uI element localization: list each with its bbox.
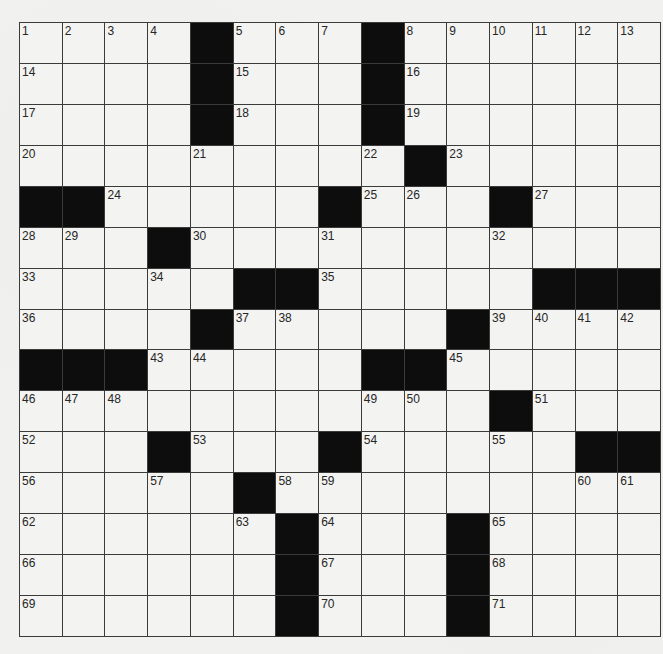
grid-cell-r8-c10[interactable]: 45 <box>447 350 490 391</box>
grid-cell-r11-c14[interactable]: 61 <box>618 473 661 514</box>
grid-cell-r0-c7[interactable]: 7 <box>319 23 362 64</box>
grid-cell-r9-c13[interactable] <box>576 391 619 432</box>
grid-cell-r5-c0[interactable]: 28 <box>20 228 63 269</box>
grid-cell-r5-c1[interactable]: 29 <box>63 228 106 269</box>
grid-cell-r9-c2[interactable]: 48 <box>105 391 148 432</box>
grid-cell-r7-c6[interactable]: 38 <box>276 310 319 351</box>
grid-cell-r0-c2[interactable]: 3 <box>105 23 148 64</box>
grid-cell-r0-c11[interactable]: 10 <box>490 23 533 64</box>
grid-cell-r3-c2[interactable] <box>105 146 148 187</box>
grid-cell-r12-c9[interactable] <box>405 514 448 555</box>
grid-cell-r14-c5[interactable] <box>234 596 277 637</box>
grid-cell-r13-c11[interactable]: 68 <box>490 555 533 596</box>
grid-cell-r11-c4[interactable] <box>191 473 234 514</box>
grid-cell-r11-c8[interactable] <box>362 473 405 514</box>
grid-cell-r5-c11[interactable]: 32 <box>490 228 533 269</box>
grid-cell-r8-c6[interactable] <box>276 350 319 391</box>
grid-cell-r12-c8[interactable] <box>362 514 405 555</box>
grid-cell-r2-c13[interactable] <box>576 105 619 146</box>
grid-cell-r7-c0[interactable]: 36 <box>20 310 63 351</box>
grid-cell-r1-c10[interactable] <box>447 64 490 105</box>
grid-cell-r4-c10[interactable] <box>447 187 490 228</box>
grid-cell-r3-c4[interactable]: 21 <box>191 146 234 187</box>
grid-cell-r8-c13[interactable] <box>576 350 619 391</box>
grid-cell-r7-c8[interactable] <box>362 310 405 351</box>
grid-cell-r14-c7[interactable]: 70 <box>319 596 362 637</box>
grid-cell-r9-c12[interactable]: 51 <box>533 391 576 432</box>
grid-cell-r5-c14[interactable] <box>618 228 661 269</box>
grid-cell-r13-c4[interactable] <box>191 555 234 596</box>
grid-cell-r0-c3[interactable]: 4 <box>148 23 191 64</box>
grid-cell-r13-c3[interactable] <box>148 555 191 596</box>
grid-cell-r0-c10[interactable]: 9 <box>447 23 490 64</box>
grid-cell-r1-c12[interactable] <box>533 64 576 105</box>
grid-cell-r9-c3[interactable] <box>148 391 191 432</box>
grid-cell-r5-c13[interactable] <box>576 228 619 269</box>
grid-cell-r14-c2[interactable] <box>105 596 148 637</box>
grid-cell-r7-c9[interactable] <box>405 310 448 351</box>
grid-cell-r3-c7[interactable] <box>319 146 362 187</box>
grid-cell-r13-c14[interactable] <box>618 555 661 596</box>
grid-cell-r3-c12[interactable] <box>533 146 576 187</box>
grid-cell-r0-c14[interactable]: 13 <box>618 23 661 64</box>
grid-cell-r9-c6[interactable] <box>276 391 319 432</box>
grid-cell-r6-c2[interactable] <box>105 269 148 310</box>
grid-cell-r12-c0[interactable]: 62 <box>20 514 63 555</box>
grid-cell-r0-c1[interactable]: 2 <box>63 23 106 64</box>
grid-cell-r4-c9[interactable]: 26 <box>405 187 448 228</box>
grid-cell-r12-c12[interactable] <box>533 514 576 555</box>
grid-cell-r1-c6[interactable] <box>276 64 319 105</box>
grid-cell-r14-c11[interactable]: 71 <box>490 596 533 637</box>
grid-cell-r9-c5[interactable] <box>234 391 277 432</box>
grid-cell-r2-c5[interactable]: 18 <box>234 105 277 146</box>
grid-cell-r1-c11[interactable] <box>490 64 533 105</box>
grid-cell-r7-c3[interactable] <box>148 310 191 351</box>
grid-cell-r7-c14[interactable]: 42 <box>618 310 661 351</box>
grid-cell-r9-c10[interactable] <box>447 391 490 432</box>
grid-cell-r8-c3[interactable]: 43 <box>148 350 191 391</box>
grid-cell-r2-c6[interactable] <box>276 105 319 146</box>
grid-cell-r12-c11[interactable]: 65 <box>490 514 533 555</box>
grid-cell-r11-c9[interactable] <box>405 473 448 514</box>
grid-cell-r11-c3[interactable]: 57 <box>148 473 191 514</box>
grid-cell-r2-c1[interactable] <box>63 105 106 146</box>
grid-cell-r6-c4[interactable] <box>191 269 234 310</box>
grid-cell-r2-c12[interactable] <box>533 105 576 146</box>
grid-cell-r8-c12[interactable] <box>533 350 576 391</box>
grid-cell-r1-c14[interactable] <box>618 64 661 105</box>
grid-cell-r3-c8[interactable]: 22 <box>362 146 405 187</box>
grid-cell-r12-c5[interactable]: 63 <box>234 514 277 555</box>
grid-cell-r10-c11[interactable]: 55 <box>490 432 533 473</box>
grid-cell-r11-c13[interactable]: 60 <box>576 473 619 514</box>
grid-cell-r9-c9[interactable]: 50 <box>405 391 448 432</box>
grid-cell-r5-c8[interactable] <box>362 228 405 269</box>
grid-cell-r11-c1[interactable] <box>63 473 106 514</box>
grid-cell-r12-c2[interactable] <box>105 514 148 555</box>
grid-cell-r13-c8[interactable] <box>362 555 405 596</box>
grid-cell-r12-c7[interactable]: 64 <box>319 514 362 555</box>
grid-cell-r3-c14[interactable] <box>618 146 661 187</box>
grid-cell-r1-c1[interactable] <box>63 64 106 105</box>
grid-cell-r11-c0[interactable]: 56 <box>20 473 63 514</box>
grid-cell-r13-c7[interactable]: 67 <box>319 555 362 596</box>
grid-cell-r11-c11[interactable] <box>490 473 533 514</box>
grid-cell-r14-c4[interactable] <box>191 596 234 637</box>
grid-cell-r11-c6[interactable]: 58 <box>276 473 319 514</box>
grid-cell-r1-c9[interactable]: 16 <box>405 64 448 105</box>
grid-cell-r4-c12[interactable]: 27 <box>533 187 576 228</box>
grid-cell-r1-c7[interactable] <box>319 64 362 105</box>
grid-cell-r14-c0[interactable]: 69 <box>20 596 63 637</box>
grid-cell-r13-c2[interactable] <box>105 555 148 596</box>
grid-cell-r6-c11[interactable] <box>490 269 533 310</box>
grid-cell-r2-c10[interactable] <box>447 105 490 146</box>
grid-cell-r5-c7[interactable]: 31 <box>319 228 362 269</box>
grid-cell-r8-c7[interactable] <box>319 350 362 391</box>
grid-cell-r2-c3[interactable] <box>148 105 191 146</box>
grid-cell-r0-c0[interactable]: 1 <box>20 23 63 64</box>
grid-cell-r1-c0[interactable]: 14 <box>20 64 63 105</box>
grid-cell-r10-c12[interactable] <box>533 432 576 473</box>
grid-cell-r10-c0[interactable]: 52 <box>20 432 63 473</box>
grid-cell-r4-c8[interactable]: 25 <box>362 187 405 228</box>
grid-cell-r3-c1[interactable] <box>63 146 106 187</box>
grid-cell-r10-c2[interactable] <box>105 432 148 473</box>
